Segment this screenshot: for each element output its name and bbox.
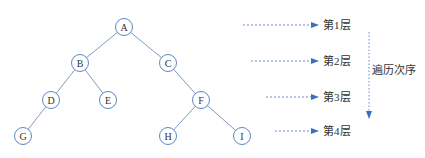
node-label: C xyxy=(165,58,172,69)
tree-edges xyxy=(28,32,235,130)
tree-edge-a-c xyxy=(131,32,162,57)
binary-tree-level-diagram: ABCDEFGHI 第1层第2层第3层第4层 遍历次序 xyxy=(0,0,425,158)
level-label: 第1层 xyxy=(323,18,351,31)
tree-node-f: F xyxy=(193,92,210,109)
tree-edge-c-f xyxy=(174,69,196,93)
node-label: B xyxy=(77,58,84,69)
tree-edge-f-h xyxy=(174,106,196,129)
tree-node-e: E xyxy=(100,92,117,109)
node-label: E xyxy=(105,95,111,106)
node-label: G xyxy=(19,131,26,142)
node-label: A xyxy=(120,22,128,33)
level-3: 第3层 xyxy=(266,90,351,103)
tree-edge-b-e xyxy=(85,70,103,93)
level-4: 第4层 xyxy=(275,124,351,137)
tree-nodes: ABCDEFGHI xyxy=(15,19,251,145)
tree-edge-d-g xyxy=(28,107,46,130)
level-label: 第4层 xyxy=(323,124,351,137)
traversal-label: 遍历次序 xyxy=(372,63,416,76)
node-label: F xyxy=(198,95,204,106)
tree-node-a: A xyxy=(116,19,133,36)
level-2: 第2层 xyxy=(251,54,351,67)
level-labels: 第1层第2层第3层第4层 xyxy=(243,18,351,137)
traversal-order: 遍历次序 xyxy=(369,32,416,118)
tree-node-i: I xyxy=(234,128,251,145)
level-label: 第2层 xyxy=(323,54,351,67)
node-label: H xyxy=(164,131,171,142)
tree-node-b: B xyxy=(72,55,89,72)
level-1: 第1层 xyxy=(243,18,351,31)
tree-edge-a-b xyxy=(87,32,118,57)
tree-node-c: C xyxy=(160,55,177,72)
level-label: 第3层 xyxy=(323,90,351,103)
node-label: I xyxy=(240,131,243,142)
tree-edge-f-i xyxy=(207,106,235,131)
node-label: D xyxy=(47,95,54,106)
tree-node-g: G xyxy=(15,128,32,145)
tree-edge-b-d xyxy=(56,70,75,94)
tree-node-d: D xyxy=(43,92,60,109)
tree-node-h: H xyxy=(160,128,177,145)
